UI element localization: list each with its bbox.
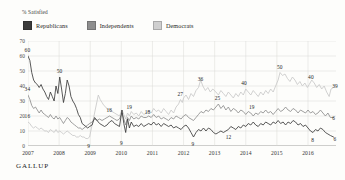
data-label-republicans-12-13: 12 bbox=[226, 134, 232, 140]
data-label-republicans-6-21: 6 bbox=[334, 136, 337, 142]
chart-container: % Satisfied Republicans Independents Dem… bbox=[0, 0, 345, 180]
legend-label-democrats: Democrats bbox=[166, 22, 194, 29]
y-tick-20: 20 bbox=[10, 113, 25, 119]
legend-item-independents[interactable]: Independents bbox=[87, 21, 134, 30]
data-label-republicans-50-3: 50 bbox=[57, 68, 63, 74]
data-label-independents-25-12: 25 bbox=[215, 95, 221, 101]
data-label-democrats-27-9: 27 bbox=[177, 91, 183, 97]
data-label-independents-16-5: 16 bbox=[107, 107, 113, 113]
data-label-democrats-39-19: 39 bbox=[332, 83, 338, 89]
data-label-republicans-60-0: 60 bbox=[25, 47, 31, 53]
data-label-democrats-50-16: 50 bbox=[277, 64, 283, 70]
legend-label-independents: Independents bbox=[100, 22, 134, 29]
x-tick-2012: 2012 bbox=[168, 150, 200, 156]
legend-swatch-independents bbox=[87, 21, 96, 30]
x-tick-2010: 2010 bbox=[105, 150, 137, 156]
data-label-democrats-19-7: 19 bbox=[127, 104, 133, 110]
y-tick-50: 50 bbox=[10, 68, 25, 74]
x-tick-2015: 2015 bbox=[261, 150, 293, 156]
data-label-independents-19-15: 19 bbox=[249, 104, 255, 110]
data-label-democrats-36-11: 36 bbox=[198, 76, 204, 82]
x-tick-2007: 2007 bbox=[12, 150, 44, 156]
legend-item-republicans[interactable]: Republicans bbox=[23, 21, 68, 30]
x-tick-2014: 2014 bbox=[230, 150, 262, 156]
x-tick-2009: 2009 bbox=[74, 150, 106, 156]
data-label-independents-34-1: 34 bbox=[25, 86, 31, 92]
y-tick-70: 70 bbox=[10, 38, 25, 44]
x-tick-2011: 2011 bbox=[136, 150, 168, 156]
y-tick-10: 10 bbox=[10, 128, 25, 134]
data-label-independents-18-8: 18 bbox=[145, 109, 151, 115]
legend-label-republicans: Republicans bbox=[36, 22, 68, 29]
data-label-democrats-16-2: 16 bbox=[25, 113, 31, 119]
data-label-republicans-8-18: 8 bbox=[311, 137, 314, 143]
y-tick-60: 60 bbox=[10, 53, 25, 59]
data-label-republicans-9-6: 9 bbox=[120, 140, 123, 146]
x-tick-2013: 2013 bbox=[199, 150, 231, 156]
y-tick-40: 40 bbox=[10, 83, 25, 89]
data-label-democrats-9-4: 9 bbox=[87, 143, 90, 149]
data-label-republicans-9-10: 9 bbox=[191, 141, 194, 147]
source-attribution: GALLUP bbox=[16, 162, 49, 170]
x-tick-2008: 2008 bbox=[43, 150, 75, 156]
y-tick-30: 30 bbox=[10, 98, 25, 104]
chart-legend: Republicans Independents Democrats bbox=[23, 21, 213, 30]
legend-swatch-republicans bbox=[23, 21, 32, 30]
legend-swatch-democrats bbox=[153, 21, 162, 30]
data-label-democrats-40-17: 40 bbox=[308, 74, 314, 80]
y-axis-title: % Satisfied bbox=[22, 9, 48, 15]
data-label-democrats-40-14: 40 bbox=[241, 80, 247, 86]
legend-item-democrats[interactable]: Democrats bbox=[153, 21, 194, 30]
x-tick-2016: 2016 bbox=[292, 150, 324, 156]
data-label-independents-6-20: 6 bbox=[332, 115, 335, 121]
y-tick-0: 0 bbox=[10, 143, 25, 149]
